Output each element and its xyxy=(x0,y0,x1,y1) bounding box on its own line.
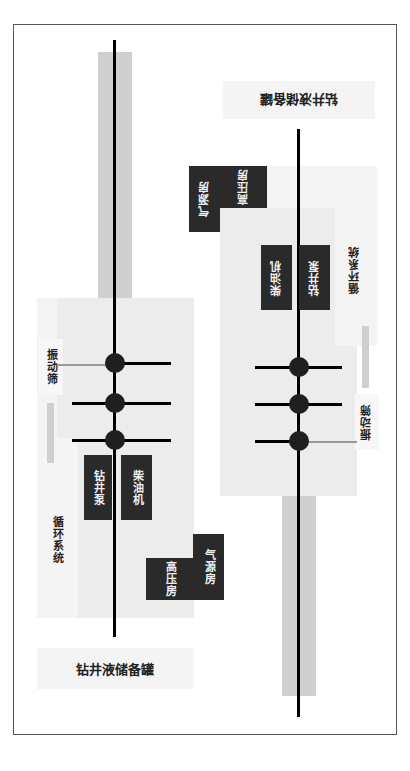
left-shaker-screen xyxy=(47,403,54,463)
left-diesel-engine: 柴油机 xyxy=(121,455,152,520)
right-circulation-label: 循环系统 xyxy=(342,235,368,305)
right-air-source-room-top: 气源房 xyxy=(189,166,220,232)
left-main-pipe xyxy=(113,40,116,637)
left-high-pressure-room: 高压房 xyxy=(146,558,193,600)
left-shaker-label: 振动筛 xyxy=(39,339,63,395)
right-mud-tank-label: 钻井液储备罐 xyxy=(260,91,338,110)
right-wellhead-1 xyxy=(289,357,309,377)
left-mud-tank-label: 钻井液储备罐 xyxy=(76,659,154,678)
right-wellhead-2 xyxy=(289,394,309,414)
left-high-pressure-label: 高压房 xyxy=(162,561,178,597)
right-air-source-label-top: 气源房 xyxy=(197,181,213,217)
right-wellhead-3 xyxy=(289,431,309,451)
left-mud-pump: 钻井泵 xyxy=(84,455,112,520)
left-circulation-label: 循环系统 xyxy=(44,505,70,575)
left-air-source-label: 气源房 xyxy=(201,549,217,585)
right-main-pipe-lower xyxy=(297,496,300,717)
left-diesel-engine-label: 柴油机 xyxy=(129,470,145,506)
right-diesel-engine-label: 柴油机 xyxy=(269,260,285,296)
left-air-source-room: 气源房 xyxy=(193,534,224,600)
right-shaker-label: 振动筛 xyxy=(355,394,379,450)
diagram-frame: 振动筛 钻井泵 柴油机 循环系统 高压房 气源房 钻井液储备罐 钻井液储备罐 气… xyxy=(13,24,397,735)
left-mud-tank: 钻井液储备罐 xyxy=(37,648,193,689)
right-mud-pump: 钻井泵 xyxy=(299,245,330,310)
left-wellhead-1 xyxy=(105,353,125,373)
right-diesel-engine: 柴油机 xyxy=(261,245,292,310)
left-rig-floor xyxy=(57,298,194,438)
right-mud-pump-label: 钻井泵 xyxy=(307,260,323,296)
right-mud-tank: 钻井液储备罐 xyxy=(223,81,375,119)
right-high-pressure-room-top: 高压房 xyxy=(220,166,267,208)
left-wellhead-3 xyxy=(105,430,125,450)
right-high-pressure-label-top: 高压房 xyxy=(236,169,252,205)
left-mud-pump-label: 钻井泵 xyxy=(90,470,106,506)
right-shaker-screen xyxy=(362,326,369,388)
left-wellhead-2 xyxy=(105,393,125,413)
